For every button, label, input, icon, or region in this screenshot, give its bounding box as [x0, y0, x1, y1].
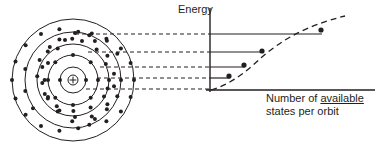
curve-points: [226, 27, 323, 78]
x-axis-label-line2: states per orbit: [266, 105, 339, 117]
curve-point-4: [259, 48, 264, 53]
energy-level-figure: Energy Number of available states per or…: [0, 0, 379, 164]
nucleus-plus-icon: [70, 77, 77, 84]
x-axis-label: Number of available states per orbit: [266, 92, 364, 118]
saturation-curve: [211, 16, 345, 90]
curve-point-5: [318, 27, 323, 32]
energy-levels: [210, 34, 322, 78]
curve-point-2: [226, 73, 231, 78]
x-axis-label-underlined-word: available: [320, 92, 363, 104]
curve-point-3: [241, 62, 246, 67]
x-axis-label-line1-prefix: Number of: [266, 92, 320, 104]
y-axis-label: Energy: [178, 3, 213, 16]
atom-diagram: [10, 19, 136, 141]
figure-canvas: [0, 0, 379, 164]
axes: [206, 8, 375, 92]
